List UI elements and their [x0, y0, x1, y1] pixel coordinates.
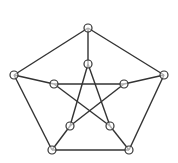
- graph-nodes: [10, 24, 168, 154]
- graph-node: [125, 146, 133, 154]
- graph-edge: [70, 64, 88, 126]
- graph-edge: [88, 28, 164, 75]
- graph-node: [84, 60, 92, 68]
- graph-edge: [124, 75, 164, 84]
- graph-edge: [88, 64, 110, 126]
- graph-edge: [54, 84, 110, 126]
- petersen-graph: [0, 0, 178, 163]
- graph-edge: [14, 75, 54, 84]
- graph-edge: [14, 28, 88, 75]
- graph-node: [84, 24, 92, 32]
- graph-node: [10, 71, 18, 79]
- graph-edge: [14, 75, 52, 150]
- graph-node: [50, 80, 58, 88]
- graph-node: [48, 146, 56, 154]
- graph-node: [160, 71, 168, 79]
- graph-node: [120, 80, 128, 88]
- graph-node: [66, 122, 74, 130]
- graph-edges: [14, 28, 164, 150]
- graph-node: [106, 122, 114, 130]
- graph-edge: [129, 75, 164, 150]
